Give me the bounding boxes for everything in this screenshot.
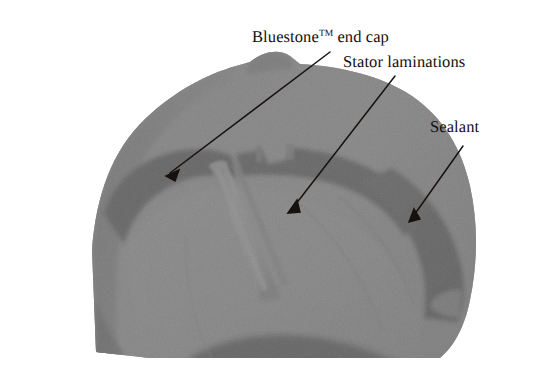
trademark-superscript: TM [319,29,333,39]
annotation-label-bluestone-main: Bluestone [252,27,319,46]
annotated-figure: BluestoneTM end cap Stator laminations S… [0,0,541,377]
annotation-label-sealant: Sealant [430,118,479,135]
annotation-label-bluestone-suffix: end cap [333,27,389,46]
annotation-label-bluestone: BluestoneTM end cap [252,28,389,45]
annotation-label-stator: Stator laminations [343,53,465,70]
